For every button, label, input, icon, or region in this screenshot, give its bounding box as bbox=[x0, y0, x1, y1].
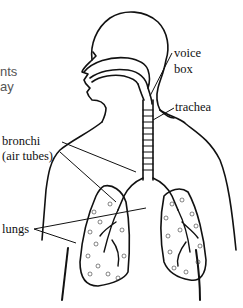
air-tubes-label: (air tubes) bbox=[2, 150, 53, 163]
air-tubes-leader bbox=[60, 152, 116, 202]
lungs-label: lungs bbox=[2, 223, 29, 236]
nasal-cavity bbox=[84, 58, 150, 88]
bronchi-label: bronchi bbox=[2, 135, 40, 148]
voice-box-label-line1: voice bbox=[174, 47, 201, 60]
right-lung bbox=[161, 189, 206, 280]
trachea-label: trachea bbox=[175, 101, 211, 114]
respiratory-diagram: nts ay bbox=[0, 0, 243, 308]
bronchi-leader bbox=[62, 142, 136, 172]
body-outline-right bbox=[160, 110, 236, 250]
lungs-leader-left bbox=[34, 229, 76, 243]
voice-box-label-line2: box bbox=[174, 63, 193, 76]
voice-box-leader bbox=[150, 53, 172, 96]
